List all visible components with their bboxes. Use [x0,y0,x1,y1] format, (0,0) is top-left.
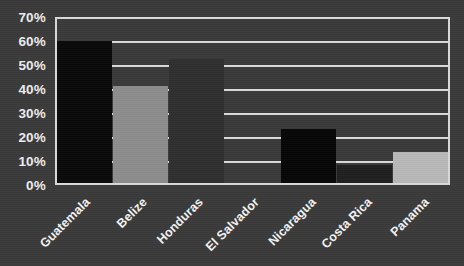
y-tick-label: 70% [18,10,46,25]
bar-slot-guatemala [57,19,113,183]
bar-chart: 70% 60% 50% 40% 30% 20% 10% 0% [0,0,464,266]
bar-slot-panama [392,19,448,183]
x-tick-label-belize: Belize [114,195,150,231]
y-tick-label: 60% [18,34,46,49]
plot-area [55,17,450,185]
bar-slot-el-salvador [225,19,281,183]
x-slot-costa-rica: Costa Rica [337,185,393,266]
x-slot-guatemala: Guatemala [55,185,111,266]
y-tick-label: 20% [18,130,46,145]
bar-series [57,19,448,183]
y-tick-label: 50% [18,58,46,73]
x-slot-honduras: Honduras [168,185,224,266]
bar-costa-rica[interactable] [337,165,392,183]
bar-belize[interactable] [113,86,168,183]
x-axis: Guatemala Belize Honduras El Salvador Ni… [55,185,450,266]
x-tick-label-panama: Panama [387,195,431,239]
x-slot-belize: Belize [111,185,167,266]
bar-panama[interactable] [393,152,448,183]
y-tick-label: 10% [18,154,46,169]
x-slot-nicaragua: Nicaragua [281,185,337,266]
bar-honduras[interactable] [169,59,224,183]
bar-guatemala[interactable] [57,41,112,183]
bar-slot-costa-rica [336,19,392,183]
bar-slot-honduras [169,19,225,183]
x-slot-el-salvador: El Salvador [224,185,280,266]
y-tick-label: 30% [18,106,46,121]
bar-slot-nicaragua [280,19,336,183]
y-tick-label: 0% [26,178,46,193]
bar-nicaragua[interactable] [281,129,336,183]
x-slot-panama: Panama [394,185,450,266]
bar-slot-belize [113,19,169,183]
y-tick-label: 40% [18,82,46,97]
y-axis: 70% 60% 50% 40% 30% 20% 10% 0% [0,0,52,266]
